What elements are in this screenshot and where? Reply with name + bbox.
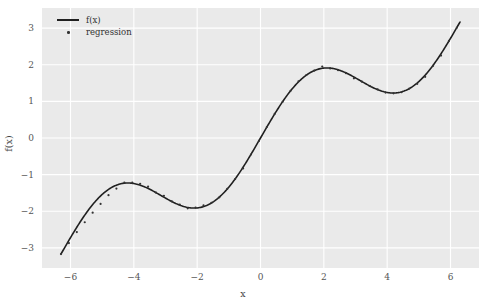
y-tick-label: 3 [4,23,34,33]
legend-item-regression: regression [56,26,132,38]
y-tick-label: 1 [4,96,34,106]
x-tick-label: −2 [179,272,215,282]
y-tick-label: −1 [4,170,34,180]
legend-label-regression: regression [82,26,132,38]
legend-dot-icon [56,26,82,38]
legend-line-icon [56,14,82,26]
x-tick-label: −4 [116,272,152,282]
x-tick-label: 0 [243,272,279,282]
chart-legend: f(x) regression [52,12,136,40]
x-tick-label: −6 [53,272,89,282]
y-tick-label: −3 [4,243,34,253]
x-axis-label: x [0,288,486,299]
data-layer [42,8,479,268]
legend-label-fx: f(x) [82,14,101,26]
x-tick-label: 6 [433,272,469,282]
y-tick-label: −2 [4,206,34,216]
x-tick-label: 4 [369,272,405,282]
chart-figure: 3210−1−2−3 −6−4−20246 x f(x) f(x) regres… [0,0,486,308]
legend-item-fx: f(x) [56,14,132,26]
plot-area [42,8,479,268]
y-axis-label: f(x) [3,124,14,164]
x-tick-label: 2 [306,272,342,282]
y-tick-label: 2 [4,60,34,70]
